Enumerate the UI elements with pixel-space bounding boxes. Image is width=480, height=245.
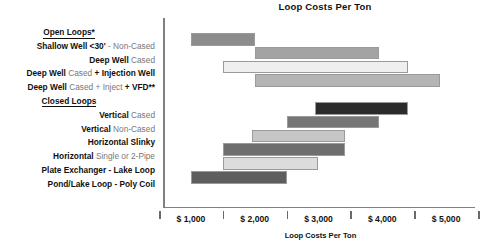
label-bold: Deep Well	[26, 68, 66, 78]
label-rest: Single or 2-Pipe	[96, 151, 155, 161]
group-header-open-loops: Open Loops*	[0, 26, 160, 40]
bar-horizontal-single-or-2-pipe	[223, 143, 345, 156]
bar-deep-well-cased-inject-vfd	[255, 74, 440, 87]
label-qualifier: <30'	[90, 41, 106, 51]
group-header-closed-loops-text: Closed Loops	[42, 96, 97, 108]
category-label-deep-well-cased: Deep Well Cased	[0, 54, 160, 68]
label-bold: Shallow Well	[37, 41, 88, 51]
bar-pond-lake-loop-poly-coil	[191, 171, 287, 184]
category-label-pond-lake-loop: Pond/Lake Loop - Poly Coil	[0, 178, 160, 192]
group-header-open-loops-text: Open Loops*	[43, 27, 95, 39]
label-bold-2: + Injection Well	[95, 68, 155, 78]
category-label-horizontal-slinky: Horizontal Slinky	[0, 136, 160, 150]
bar-deep-well-cased-injection-well	[223, 61, 408, 74]
bar-deep-well-cased	[255, 47, 379, 60]
label-rest: - Non-Cased	[108, 41, 155, 51]
x-tick-label-4000: $ 4,000	[350, 214, 414, 224]
y-axis-line	[163, 18, 165, 208]
x-axis-line	[163, 207, 475, 209]
category-label-deep-well-vfd: Deep Well Cased + Inject + VFD**	[0, 81, 160, 95]
label-bold: Horizontal	[53, 151, 94, 161]
label-bold: Vertical	[99, 110, 129, 120]
x-tick-label-1000: $ 1,000	[159, 214, 223, 224]
label-rest: Cased	[68, 68, 92, 78]
bar-vertical-cased	[315, 102, 408, 115]
bar-shallow-well-30-non-cased	[191, 33, 255, 46]
label-bold: Plate Exchanger - Lake Loop	[42, 165, 155, 175]
plot-area	[163, 18, 478, 208]
category-label-vertical-cased: Vertical Cased	[0, 109, 160, 123]
bar-horizontal-slinky	[252, 130, 346, 143]
x-axis-ticks: $ 1,000$ 2,000$ 3,000$ 4,000$ 5,000	[0, 211, 478, 227]
label-bold: Horizontal Slinky	[88, 137, 155, 147]
label-rest: Cased + Inject	[69, 82, 122, 92]
category-label-deep-well-injection: Deep Well Cased + Injection Well	[0, 67, 160, 81]
category-label-column: Open Loops* Shallow Well <30' - Non-Case…	[0, 26, 160, 192]
x-tick-5500	[478, 211, 480, 219]
label-rest: Cased	[131, 110, 155, 120]
category-label-vertical-non-cased: Vertical Non-Cased	[0, 123, 160, 137]
label-bold: Deep Well	[89, 55, 129, 65]
label-bold-2: + VFD**	[125, 82, 155, 92]
x-tick-label-5000: $ 5,000	[414, 214, 478, 224]
category-label-shallow-well: Shallow Well <30' - Non-Cased	[0, 40, 160, 54]
x-tick-label-3000: $ 3,000	[287, 214, 351, 224]
category-label-horizontal-single: Horizontal Single or 2-Pipe	[0, 150, 160, 164]
x-axis-title: Loop Costs Per Ton	[163, 231, 478, 240]
x-tick-label-2000: $ 2,000	[223, 214, 287, 224]
label-bold: Vertical	[81, 124, 111, 134]
label-bold: Pond/Lake Loop - Poly Coil	[48, 179, 155, 189]
chart-title: Loop Costs Per Ton	[240, 1, 410, 12]
label-bold: Deep Well	[27, 82, 67, 92]
label-rest: Cased	[131, 55, 155, 65]
bar-plate-exchanger-lake-loop	[223, 157, 319, 170]
label-rest: Non-Cased	[113, 124, 155, 134]
category-label-plate-exchanger: Plate Exchanger - Lake Loop	[0, 164, 160, 178]
bar-vertical-non-cased	[287, 116, 380, 129]
group-header-closed-loops: Closed Loops	[0, 95, 160, 109]
